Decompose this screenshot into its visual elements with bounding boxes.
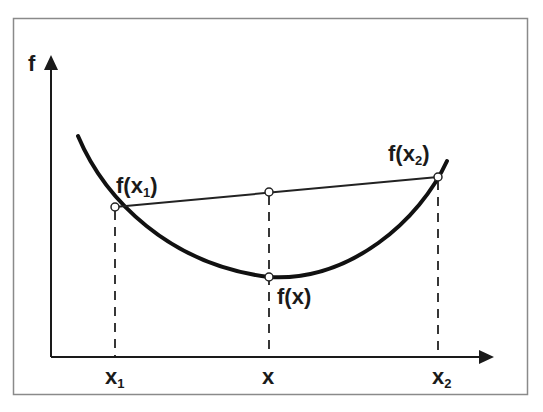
chord-line [115, 177, 438, 207]
x-tick-label-x1: x1 [105, 364, 124, 391]
convex-function-diagram: f f(x1) f(x) f(x2) x1 x x2 [0, 0, 543, 412]
x-tick-label-x2: x2 [432, 364, 451, 391]
x-tick-label-x: x [262, 364, 275, 389]
diagram-frame [14, 19, 528, 395]
label-f-x: f(x) [277, 284, 311, 309]
point-f-x [265, 273, 273, 281]
y-axis-arrow-icon [44, 55, 58, 70]
label-f-x1: f(x1) [116, 173, 157, 200]
point-f-x1 [111, 203, 119, 211]
point-f-x2 [434, 173, 442, 181]
x-axis-arrow-icon [479, 350, 494, 364]
point-chord-midpoint [265, 188, 273, 196]
label-f-x2: f(x2) [388, 141, 429, 168]
y-axis-label: f [28, 51, 36, 76]
